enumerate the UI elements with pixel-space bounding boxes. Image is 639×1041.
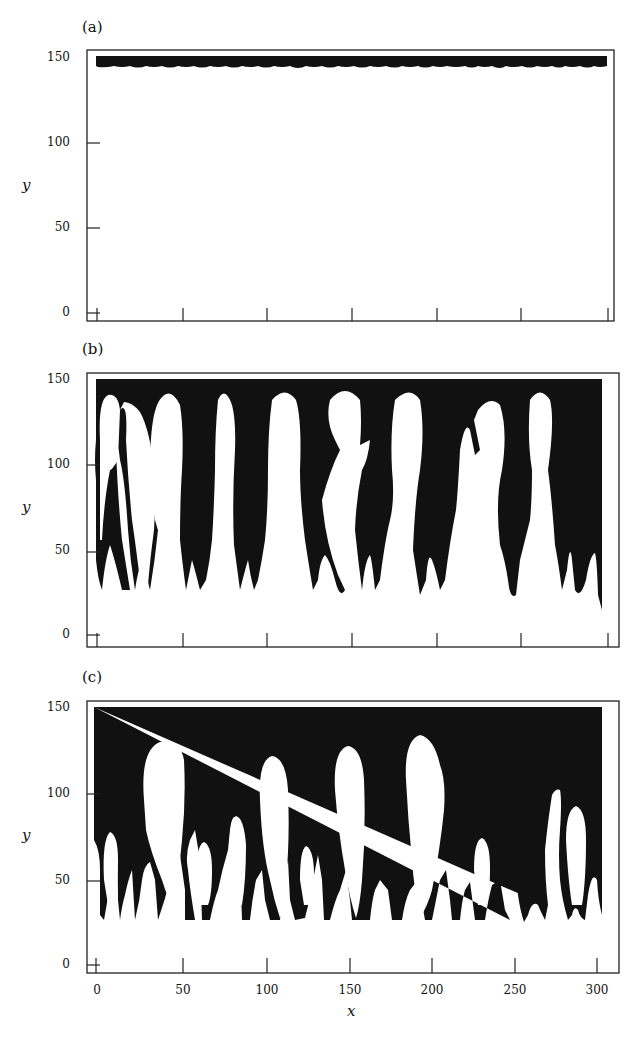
panel-b [87, 373, 619, 647]
panel-c [87, 701, 619, 973]
figure-plots [0, 0, 639, 1041]
panel-a [87, 50, 614, 321]
dark-band-a [96, 56, 607, 68]
